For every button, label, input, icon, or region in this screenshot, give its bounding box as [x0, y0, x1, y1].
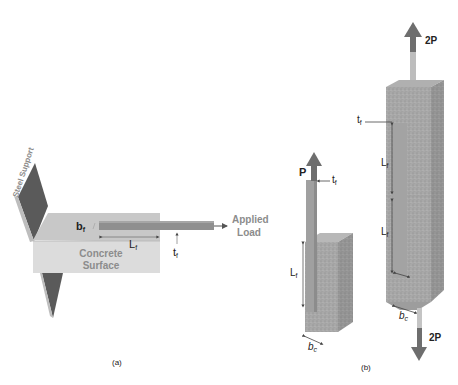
bc-label-double: bc — [399, 311, 408, 322]
lf-label-single: Lf — [290, 268, 298, 279]
caption-a: (a) — [112, 359, 122, 367]
single-shear-specimen — [303, 152, 353, 344]
tf-label-a: tf — [173, 247, 178, 259]
top-load-2p-label: 2P — [425, 36, 437, 46]
panel-a-drawing — [0, 0, 458, 385]
bottom-load-2p-label: 2P — [429, 333, 441, 343]
bf-label: bf — [76, 221, 85, 233]
tf-label-single: tf — [332, 175, 337, 186]
load-p-label: P — [299, 167, 306, 178]
frp-strip — [99, 221, 227, 230]
lf-upper-label: Lf — [381, 158, 389, 169]
tf-label-double: tf — [357, 115, 362, 126]
applied-load-label: Applied Load — [232, 213, 266, 239]
caption-b: (b) — [361, 364, 371, 372]
lf-lower-label: Lf — [381, 227, 389, 238]
concrete-surface-label: Concrete Surface — [77, 248, 125, 272]
lf-label-a: Lf — [129, 239, 137, 251]
bc-label-single: bc — [308, 342, 317, 353]
